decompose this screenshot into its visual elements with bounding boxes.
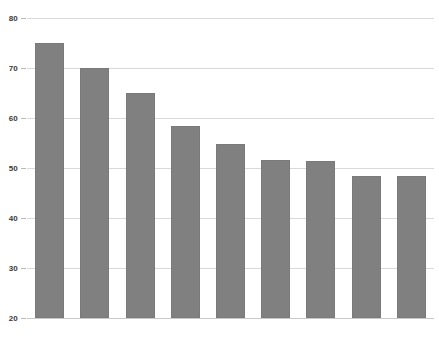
bar [306,161,335,319]
bar [126,93,155,318]
bar [352,176,381,319]
y-axis-tick-label: 30 [9,264,18,273]
y-axis-tick-mark [21,68,26,69]
y-axis-tick-mark [21,18,26,19]
bar [35,43,64,318]
plot-area: 80706050403020 1907-19161917-19261927-19… [27,18,434,318]
y-axis-tick-label: 80 [9,14,18,23]
bar-chart: 80706050403020 1907-19161917-19261927-19… [0,0,439,341]
y-axis-tick-mark [21,268,26,269]
bar [171,126,200,319]
bar [80,68,109,318]
y-axis-tick-mark [21,318,26,319]
y-axis-tick-label: 50 [9,164,18,173]
y-axis-tick-label: 70 [9,64,18,73]
bar [397,176,426,318]
y-axis-tick-label: 60 [9,114,18,123]
y-axis-tick-mark [21,168,26,169]
bar [261,160,290,318]
y-axis-tick-mark [21,218,26,219]
y-axis-tick-label: 20 [9,314,18,323]
y-axis-tick-mark [21,118,26,119]
gridline [27,318,434,319]
y-axis-tick-label: 40 [9,214,18,223]
bars-layer [27,18,434,318]
bar [216,144,245,318]
